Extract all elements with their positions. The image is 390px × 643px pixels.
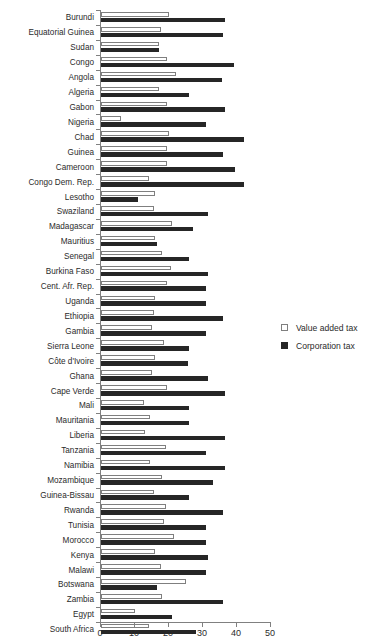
legend-swatch-corporation-tax: [281, 342, 288, 349]
bar-value-added-tax: [101, 102, 167, 107]
category-label: Tanzania: [61, 446, 94, 455]
bar-value-added-tax: [101, 445, 166, 450]
bar-group: [101, 25, 381, 40]
bar-group: [101, 488, 381, 503]
bar-group: [101, 55, 381, 70]
bar-corporation-tax: [101, 272, 208, 277]
bar-corporation-tax: [101, 137, 244, 142]
bar-group: [101, 10, 381, 25]
bar-corporation-tax: [101, 600, 223, 605]
bar-corporation-tax: [101, 93, 189, 98]
category-label: Lesotho: [65, 192, 94, 201]
bar-corporation-tax: [101, 615, 172, 620]
x-axis-tick: [236, 623, 237, 627]
bar-corporation-tax: [101, 346, 189, 351]
chart-row: Sudan: [0, 40, 390, 55]
y-axis-tick: [96, 562, 100, 563]
bar-group: [101, 562, 381, 577]
category-label: Tunisia: [68, 520, 94, 529]
bar-group: [101, 443, 381, 458]
bar-group: [101, 517, 381, 532]
bar-corporation-tax: [101, 391, 225, 396]
y-axis-tick: [96, 100, 100, 101]
category-label: Swaziland: [57, 207, 94, 216]
chart-row: Angola: [0, 70, 390, 85]
category-label: Mali: [79, 401, 94, 410]
y-axis-tick: [96, 517, 100, 518]
chart-row: Senegal: [0, 249, 390, 264]
chart-row: Morocco: [0, 532, 390, 547]
legend-item-corporation-tax: Corporation tax: [281, 338, 386, 353]
bar-value-added-tax: [101, 579, 186, 584]
category-label: Sudan: [70, 43, 94, 52]
bar-value-added-tax: [101, 325, 152, 330]
category-label: Rwanda: [64, 505, 94, 514]
chart-row: Burundi: [0, 10, 390, 25]
chart-row: Liberia: [0, 428, 390, 443]
bar-group: [101, 532, 381, 547]
bar-value-added-tax: [101, 430, 145, 435]
bar-value-added-tax: [101, 415, 150, 420]
y-axis-tick: [96, 607, 100, 608]
y-axis-tick: [96, 458, 100, 459]
category-label: Cape Verde: [51, 386, 94, 395]
chart-legend: Value added tax Corporation tax: [281, 320, 386, 356]
y-axis-tick: [96, 234, 100, 235]
bar-corporation-tax: [101, 18, 225, 23]
y-axis-tick: [96, 85, 100, 86]
bar-corporation-tax: [101, 421, 189, 426]
category-label: Cent. Afr. Rep.: [41, 282, 94, 291]
category-label: Equatorial Guinea: [28, 28, 94, 37]
category-label: Senegal: [64, 252, 94, 261]
chart-row: Guinea-Bissau: [0, 488, 390, 503]
category-label: Zambia: [67, 595, 94, 604]
bar-corporation-tax: [101, 197, 138, 202]
bar-corporation-tax: [101, 316, 223, 321]
bar-value-added-tax: [101, 534, 174, 539]
chart-row: Egypt: [0, 607, 390, 622]
category-label: Egypt: [73, 610, 94, 619]
bar-value-added-tax: [101, 72, 176, 77]
chart-row: Guinea: [0, 144, 390, 159]
x-axis-tick-label: 50: [265, 628, 275, 638]
y-axis-tick: [96, 129, 100, 130]
bar-value-added-tax: [101, 221, 172, 226]
bar-value-added-tax: [101, 385, 167, 390]
bar-corporation-tax: [101, 257, 189, 262]
y-axis-tick: [96, 428, 100, 429]
y-axis-tick: [96, 264, 100, 265]
bar-group: [101, 294, 381, 309]
x-axis-tick-label: 0: [97, 628, 102, 638]
y-axis-tick: [96, 398, 100, 399]
x-axis-tick-label: 20: [163, 628, 173, 638]
category-label: Cameroon: [56, 162, 94, 171]
category-label: Madagascar: [49, 222, 94, 231]
legend-swatch-value-added-tax: [281, 324, 288, 331]
y-axis-tick: [96, 592, 100, 593]
bar-group: [101, 368, 381, 383]
category-label: Namibia: [64, 461, 94, 470]
category-label: Angola: [69, 73, 95, 82]
bar-corporation-tax: [101, 152, 223, 157]
chart-row: Botswana: [0, 577, 390, 592]
x-axis-tick-label: 10: [129, 628, 139, 638]
bar-value-added-tax: [101, 370, 152, 375]
bar-group: [101, 592, 381, 607]
y-axis-tick: [96, 308, 100, 309]
chart-row: Malawi: [0, 562, 390, 577]
category-label: Congo Dem. Rep.: [28, 177, 94, 186]
bar-group: [101, 204, 381, 219]
chart-row: Lesotho: [0, 189, 390, 204]
chart-row: Chad: [0, 129, 390, 144]
bar-corporation-tax: [101, 63, 234, 68]
chart-row: Nigeria: [0, 114, 390, 129]
y-axis-tick: [96, 174, 100, 175]
chart-row: Cameroon: [0, 159, 390, 174]
bar-group: [101, 413, 381, 428]
chart-row: Tunisia: [0, 517, 390, 532]
y-axis-tick: [96, 577, 100, 578]
bar-corporation-tax: [101, 525, 206, 530]
y-axis-tick: [96, 323, 100, 324]
x-axis-ticks: 01020304050: [100, 623, 271, 643]
bar-group: [101, 502, 381, 517]
